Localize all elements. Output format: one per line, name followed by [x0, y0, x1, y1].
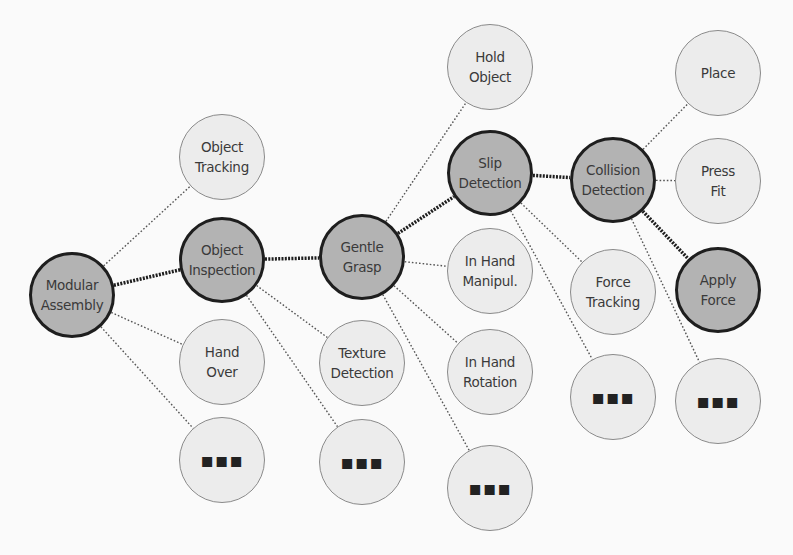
node-in-hand-rotation[interactable]: In Hand Rotation: [447, 329, 533, 415]
node-object-tracking[interactable]: Object Tracking: [179, 114, 265, 200]
node-label: Hold Object: [465, 47, 515, 87]
edge-gentle-grasp-to-in-hand-manipul: [405, 262, 448, 267]
edge-collision-detection-to-apply-force: [643, 211, 689, 259]
node-modular-assembly[interactable]: Modular Assembly: [29, 252, 115, 338]
node-label: Texture Detection: [327, 343, 398, 383]
node-label: Place: [697, 63, 739, 83]
more-ellipsis-label: ▪▪▪: [468, 478, 512, 498]
node-more-1[interactable]: ▪▪▪: [179, 417, 265, 503]
node-label: Collision Detection: [578, 160, 649, 200]
edge-modular-assembly-to-object-tracking: [104, 186, 191, 266]
node-press-fit[interactable]: Press Fit: [675, 138, 761, 224]
node-more-3[interactable]: ▪▪▪: [447, 445, 533, 531]
node-more-2[interactable]: ▪▪▪: [319, 419, 405, 505]
node-label: Force Tracking: [582, 272, 644, 312]
node-more-4[interactable]: ▪▪▪: [570, 354, 656, 440]
edge-slip-detection-to-force-tracking: [521, 203, 582, 262]
node-label: In Hand Rotation: [459, 352, 521, 392]
node-texture-detection[interactable]: Texture Detection: [319, 320, 405, 406]
more-ellipsis-label: ▪▪▪: [696, 391, 740, 411]
edge-modular-assembly-to-object-inspection: [114, 270, 180, 285]
node-label: Object Inspection: [185, 240, 260, 280]
node-label: Press Fit: [697, 161, 739, 201]
more-ellipsis-label: ▪▪▪: [340, 452, 384, 472]
node-force-tracking[interactable]: Force Tracking: [570, 249, 656, 335]
edge-gentle-grasp-to-slip-detection: [398, 197, 454, 234]
node-label: Modular Assembly: [37, 275, 108, 315]
edge-object-inspection-to-texture-detection: [257, 286, 328, 338]
more-ellipsis-label: ▪▪▪: [591, 387, 635, 407]
node-apply-force[interactable]: Apply Force: [675, 247, 761, 333]
edge-collision-detection-to-place: [643, 104, 688, 150]
node-label: Object Tracking: [191, 137, 253, 177]
edge-modular-assembly-to-hand-over: [111, 313, 182, 345]
node-slip-detection[interactable]: Slip Detection: [447, 130, 533, 216]
node-more-5[interactable]: ▪▪▪: [675, 358, 761, 444]
node-label: Apply Force: [696, 270, 741, 310]
edge-gentle-grasp-to-in-hand-rotation: [394, 286, 458, 344]
node-gentle-grasp[interactable]: Gentle Grasp: [319, 214, 405, 300]
node-object-inspection[interactable]: Object Inspection: [179, 217, 265, 303]
node-collision-detection[interactable]: Collision Detection: [570, 137, 656, 223]
node-in-hand-manipul[interactable]: In Hand Manipul.: [447, 228, 533, 314]
node-label: In Hand Manipul.: [459, 251, 522, 291]
node-label: Slip Detection: [455, 153, 526, 193]
more-ellipsis-label: ▪▪▪: [200, 450, 244, 470]
edge-slip-detection-to-collision-detection: [533, 175, 570, 177]
skill-tree-diagram: Modular AssemblyObject TrackingObject In…: [0, 0, 793, 555]
node-label: Hand Over: [201, 342, 243, 382]
node-place[interactable]: Place: [675, 30, 761, 116]
node-hand-over[interactable]: Hand Over: [179, 319, 265, 405]
edge-object-inspection-to-gentle-grasp: [265, 258, 319, 259]
node-label: Gentle Grasp: [337, 237, 388, 277]
edge-modular-assembly-to-more-1: [101, 327, 193, 428]
node-hold-object[interactable]: Hold Object: [447, 24, 533, 110]
